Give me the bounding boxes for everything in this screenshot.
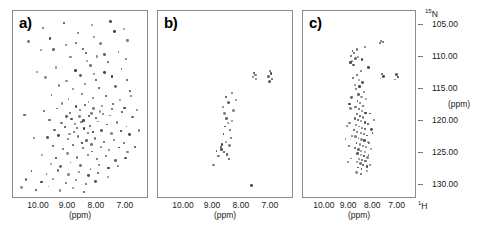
spectrum-peak xyxy=(370,148,372,150)
spectrum-peak xyxy=(97,172,99,174)
x-tick-label: 7.00 xyxy=(388,200,405,210)
spectrum-peak xyxy=(82,48,84,50)
spectrum-peak xyxy=(360,70,362,72)
spectrum-peak xyxy=(361,159,363,161)
spectrum-peak xyxy=(364,151,367,154)
y-tick-label: 110.00 xyxy=(432,51,457,61)
spectrum-peak xyxy=(76,127,78,129)
spectrum-peak xyxy=(57,169,60,172)
spectrum-peak xyxy=(59,165,62,168)
spectrum-peak xyxy=(359,102,361,104)
spectrum-peak xyxy=(89,125,92,128)
spectrum-peak xyxy=(103,141,105,143)
x-tick-label: 7.00 xyxy=(262,200,279,210)
x-tick-label: 9.00 xyxy=(59,200,76,210)
spectrum-peak xyxy=(228,158,230,160)
x-tick-label: 10.00 xyxy=(313,200,334,210)
spectrum-peak xyxy=(116,121,119,124)
spectrum-peak xyxy=(72,187,75,190)
y-tick-mark xyxy=(418,56,423,57)
spectrum-peak xyxy=(229,129,231,131)
spectrum-peak xyxy=(23,114,26,117)
spectrum-peak xyxy=(362,145,364,147)
spectrum-peak xyxy=(98,87,101,90)
spectrum-peak xyxy=(64,126,67,129)
spectrum-peak xyxy=(216,150,218,152)
spectrum-peak xyxy=(252,76,255,79)
spectrum-peak xyxy=(352,64,354,66)
spectrum-peak xyxy=(65,80,68,83)
spectrum-peak xyxy=(79,164,82,167)
spectrum-peak xyxy=(357,100,359,102)
x-axis-unit: (ppm) xyxy=(214,210,236,220)
spectrum-peak xyxy=(82,119,85,122)
spectrum-peak xyxy=(222,106,224,108)
spectrum-peak xyxy=(254,74,257,77)
spectrum-peak xyxy=(226,153,229,156)
spectrum-peak xyxy=(356,152,359,155)
spectrum-peak xyxy=(108,149,110,151)
spectrum-peak xyxy=(267,75,270,78)
spectrum-peak xyxy=(363,155,365,157)
spectrum-peak xyxy=(123,142,125,144)
spectrum-peak xyxy=(366,156,369,159)
spectrum-peak xyxy=(89,64,92,67)
spectrum-peak xyxy=(360,120,362,122)
spectrum-peak xyxy=(126,126,128,128)
spectrum-peak xyxy=(77,135,80,138)
spectrum-peak xyxy=(370,128,373,131)
spectrum-peak xyxy=(356,142,358,144)
spectrum-peak xyxy=(69,112,71,114)
spectrum-peak xyxy=(95,79,97,81)
spectrum-peak xyxy=(27,40,30,43)
spectrum-peak xyxy=(105,95,107,97)
spectrum-peak xyxy=(363,91,365,93)
spectrum-peak xyxy=(129,90,132,93)
panel-b: b) xyxy=(157,10,293,198)
spectrum-peak xyxy=(227,122,229,124)
spectrum-peak xyxy=(223,112,226,115)
panel-c: c) xyxy=(302,10,416,198)
spectrum-peak xyxy=(119,99,121,101)
spectrum-peak xyxy=(74,69,77,72)
spectrum-peak xyxy=(52,48,55,51)
spectrum-peak xyxy=(85,52,87,54)
x-tick-label: 8.00 xyxy=(233,200,250,210)
spectrum-peak xyxy=(52,145,54,147)
x-tick-label: 9.00 xyxy=(204,200,221,210)
spectrum-peak xyxy=(118,51,120,53)
spectrum-peak xyxy=(81,142,83,144)
y-tick-label: 115.00 xyxy=(432,83,457,93)
spectrum-peak xyxy=(352,50,354,52)
spectrum-peak xyxy=(356,74,358,76)
y-tick-mark xyxy=(418,152,423,153)
spectrum-peak xyxy=(361,58,364,61)
spectrum-peak xyxy=(87,174,90,177)
spectrum-peak xyxy=(52,178,54,180)
spectrum-peak xyxy=(79,74,82,77)
spectrum-peak xyxy=(250,184,253,187)
proton-nucleus-label: 1H xyxy=(418,200,427,211)
spectrum-peak xyxy=(25,178,28,181)
spectrum-peak xyxy=(113,139,115,141)
spectrum-peak xyxy=(102,113,105,116)
spectrum-peak xyxy=(354,147,356,149)
spectrum-peak xyxy=(366,170,368,172)
spectrum-peak xyxy=(362,164,364,166)
spectrum-peak xyxy=(98,164,101,167)
spectrum-peak xyxy=(228,144,231,147)
spectrum-peak xyxy=(74,123,76,125)
spectrum-peak xyxy=(100,129,103,132)
spectrum-peak xyxy=(44,76,47,79)
spectrum-peak xyxy=(125,58,127,60)
spectrum-peak xyxy=(73,131,75,133)
spectrum-peak xyxy=(111,75,114,78)
spectrum-peak xyxy=(92,131,94,133)
spectrum-peak xyxy=(354,117,357,120)
spectrum-peak xyxy=(358,126,360,128)
spectrum-peak xyxy=(369,113,371,115)
spectrum-peak xyxy=(72,88,75,91)
spectrum-peak xyxy=(365,146,367,148)
spectrum-peak xyxy=(230,137,232,139)
spectrum-peak xyxy=(35,189,37,191)
